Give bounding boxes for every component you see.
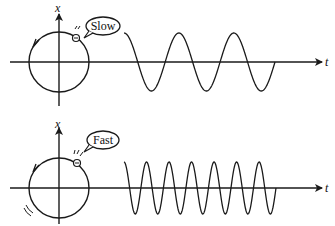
x-axis-label: x bbox=[54, 117, 61, 131]
bubble-label: Slow bbox=[91, 19, 116, 33]
diagram: t x Slow t x bbox=[0, 0, 335, 226]
speech-bubble-slow: Slow bbox=[84, 17, 120, 38]
t-axis-label: t bbox=[325, 55, 329, 69]
bubble-label: Fast bbox=[93, 133, 114, 147]
panel-fast: t x Fast bbox=[10, 117, 329, 224]
motion-lines-icon bbox=[75, 26, 80, 29]
rotation-wave-diagram: t x Slow t x bbox=[0, 0, 335, 226]
motion-lines-icon bbox=[24, 150, 83, 216]
speech-bubble-fast: Fast bbox=[84, 131, 119, 152]
rotation-arrow-icon bbox=[33, 164, 39, 172]
rotation-arrow-icon bbox=[33, 39, 39, 47]
t-axis-label: t bbox=[325, 181, 329, 195]
x-axis-label: x bbox=[54, 1, 61, 15]
panel-slow: t x Slow bbox=[10, 1, 329, 106]
